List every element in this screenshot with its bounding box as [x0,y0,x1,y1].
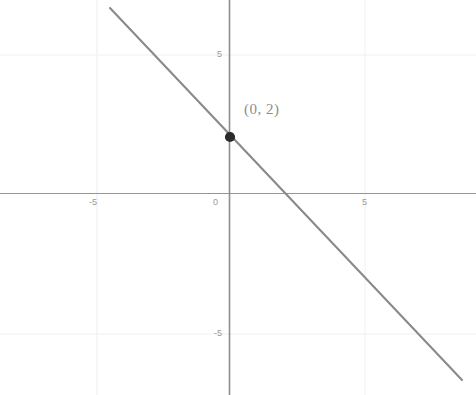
y-axis-tick-label-neg5: -5 [214,328,222,338]
plot-area [0,0,476,395]
point-annotation-label: (0, 2) [244,101,280,118]
gridlines [0,0,476,395]
x-axis-tick-label-pos5: 5 [362,197,367,207]
y-axis-tick-label-pos5: 5 [217,49,222,59]
data-point-group [225,132,235,142]
x-axis-tick-label-zero: 0 [213,197,218,207]
axes [0,0,476,395]
data-point-0-2 [225,132,235,142]
x-axis-tick-label-neg5: -5 [89,197,97,207]
coordinate-plane-graph: -5 0 5 5 -5 (0, 2) [0,0,476,395]
